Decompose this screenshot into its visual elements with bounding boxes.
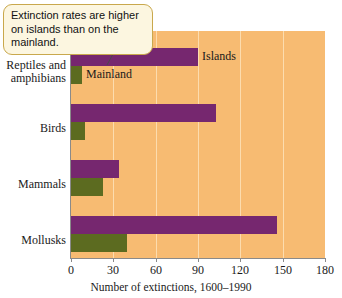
category-label-reptiles: Reptiles and amphibians [6, 59, 66, 85]
bar-islands-birds [71, 104, 216, 122]
extinctions-bar-chart: Islands Mainland Reptiles and amphibians… [0, 0, 342, 298]
tick-mark-120 [240, 258, 241, 262]
category-label-birds: Birds [40, 122, 66, 135]
tick-mark-150 [283, 258, 284, 262]
x-axis-title: Number of extinctions, 1600–1990 [0, 281, 342, 293]
x-tick-label-150: 150 [263, 263, 303, 278]
y-axis-line [70, 31, 71, 258]
x-tick-label-60: 60 [136, 263, 176, 278]
bar-mainland-birds [71, 122, 85, 140]
x-tick-label-30: 30 [93, 263, 133, 278]
tick-mark-0 [71, 258, 72, 262]
category-label-mollusks: Mollusks [21, 234, 66, 247]
series-label-islands: Islands [202, 49, 236, 64]
callout-annotation: Extinction rates are higher on islands t… [3, 4, 153, 55]
tick-mark-180 [325, 258, 326, 262]
x-tick-label-120: 120 [220, 263, 260, 278]
bar-mainland-mollusks [71, 234, 127, 252]
bar-mainland-mammals [71, 178, 103, 196]
gridline-150 [283, 31, 284, 258]
tick-mark-90 [198, 258, 199, 262]
bar-islands-mollusks [71, 216, 277, 234]
bar-islands-mammals [71, 160, 119, 178]
x-tick-label-180: 180 [305, 263, 342, 278]
category-label-mammals: Mammals [18, 178, 66, 191]
tick-mark-60 [156, 258, 157, 262]
series-label-mainland: Mainland [86, 67, 132, 82]
tick-mark-30 [113, 258, 114, 262]
x-tick-label-0: 0 [51, 263, 91, 278]
bar-mainland-reptiles [71, 66, 82, 84]
x-tick-label-90: 90 [178, 263, 218, 278]
